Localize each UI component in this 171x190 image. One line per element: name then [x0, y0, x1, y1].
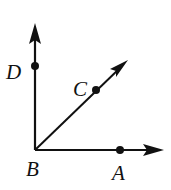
angle-diagram: D C B A: [0, 0, 171, 190]
label-b: B: [26, 157, 39, 181]
point-c: [92, 86, 100, 94]
point-a: [116, 146, 124, 154]
label-d: D: [5, 60, 21, 84]
label-a: A: [110, 161, 125, 185]
point-d: [31, 62, 39, 70]
label-c: C: [73, 77, 88, 101]
